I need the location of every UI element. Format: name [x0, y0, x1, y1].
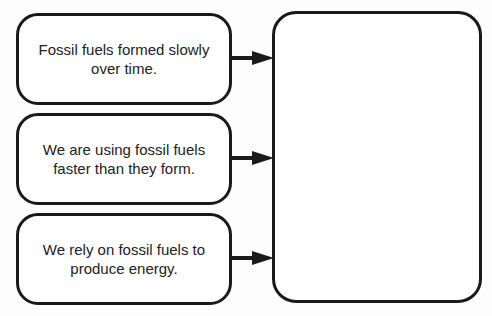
- arrow-2: [232, 151, 274, 165]
- arrow-3: [232, 251, 274, 265]
- arrow-1: [232, 51, 274, 65]
- connector-arrows: [0, 0, 492, 316]
